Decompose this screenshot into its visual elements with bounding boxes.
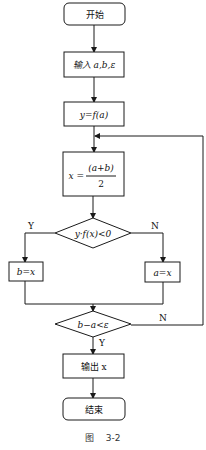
arrow-d1-yes <box>25 233 55 262</box>
output-node: 输出 x <box>63 354 124 378</box>
assign-b-node: b=x <box>9 262 43 281</box>
d1-yes-label: Y <box>27 221 35 231</box>
figure-caption: 图 3-2 <box>85 433 120 443</box>
merge-line <box>25 281 163 304</box>
flowchart: 开始 输入 a,b,ε y=f(a) x = (a+b) 2 y·f(x)<0 … <box>0 0 206 450</box>
start-node: 开始 <box>64 3 125 25</box>
start-label: 开始 <box>86 9 104 20</box>
output-label: 输出 x <box>81 361 107 372</box>
assign-x-node: x = (a+b) 2 <box>63 152 124 196</box>
decision1-node: y·f(x)<0 <box>55 218 131 248</box>
end-label: 结束 <box>85 404 103 415</box>
d2-no-label: N <box>159 313 167 323</box>
d2-yes-label: Y <box>98 338 106 348</box>
assign-y-node: y=f(a) <box>64 102 124 126</box>
assign-a-label: a=x <box>154 268 172 278</box>
decision1-label: y·f(x)<0 <box>74 229 112 239</box>
assign-b-label: b=x <box>17 267 35 277</box>
input-label: 输入 a,b,ε <box>73 60 116 70</box>
assign-x-denominator: 2 <box>98 179 104 189</box>
assign-x-lhs: x = <box>69 171 84 181</box>
assign-a-node: a=x <box>145 262 180 282</box>
assign-y-label: y=f(a) <box>79 110 109 120</box>
input-node: 输入 a,b,ε <box>64 52 124 77</box>
end-node: 结束 <box>63 398 125 420</box>
d1-no-label: N <box>151 221 159 231</box>
decision2-node: b−a<ε <box>55 311 131 337</box>
decision2-label: b−a<ε <box>77 320 108 330</box>
assign-x-numerator: (a+b) <box>88 163 114 173</box>
arrow-d1-no <box>131 233 163 262</box>
